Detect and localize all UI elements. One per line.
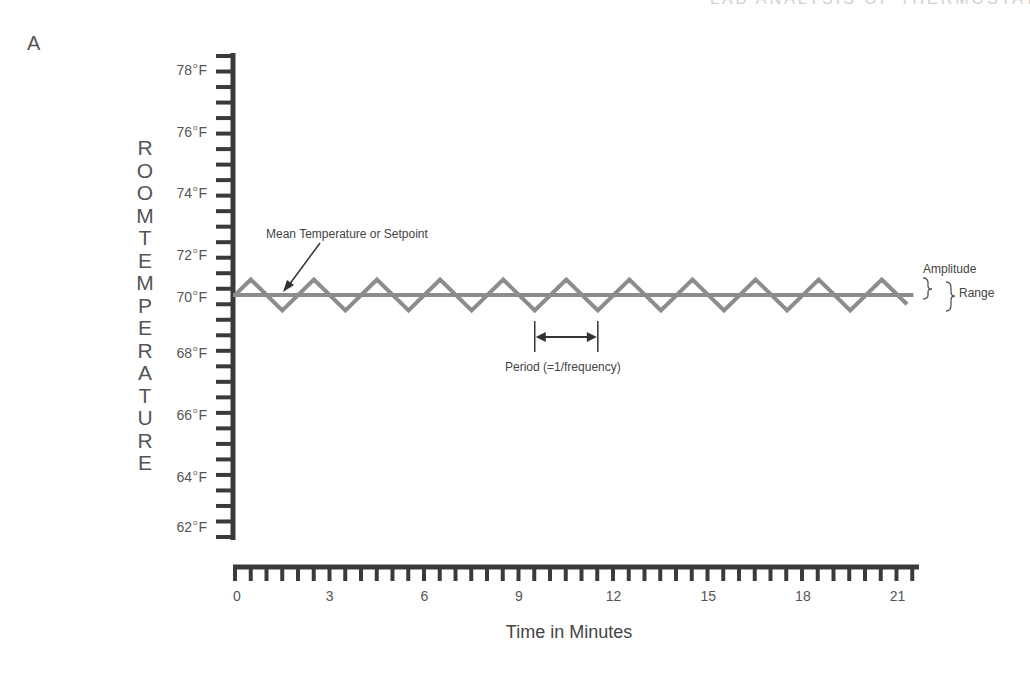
period-arrow-left-icon	[536, 332, 546, 342]
range-brace-icon	[946, 282, 955, 311]
x-axis	[233, 567, 919, 581]
y-axis	[216, 53, 233, 540]
period-arrow-right-icon	[587, 332, 597, 342]
series-group	[233, 280, 913, 311]
annotation-group	[283, 243, 955, 352]
amplitude-brace-icon	[923, 278, 932, 299]
mean-arrow-head-icon	[283, 280, 294, 292]
